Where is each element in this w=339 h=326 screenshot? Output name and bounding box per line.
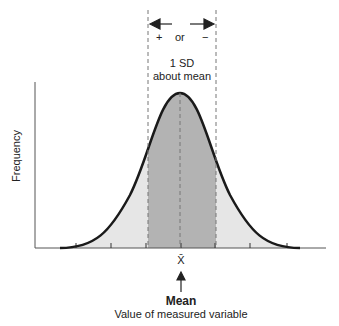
x-axis-label: Value of measured variable — [114, 308, 247, 320]
y-axis-label: Frequency — [10, 130, 22, 182]
or-label: or — [175, 31, 185, 43]
bell-curve-diagram — [0, 0, 339, 326]
minus-sign: − — [202, 31, 208, 43]
sd-label-line2: about mean — [153, 70, 211, 82]
plus-sign: + — [156, 31, 162, 43]
sd-range-arrows — [150, 19, 214, 29]
mean-symbol: X̄ — [177, 254, 184, 266]
mean-label: Mean — [166, 294, 197, 308]
sd-label-line1: 1 SD — [170, 57, 194, 69]
mean-arrow-icon — [177, 272, 185, 292]
